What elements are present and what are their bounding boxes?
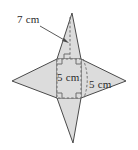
figure-container: 7 cm 5 cm 5 cm (0, 0, 138, 150)
square-side-label: 5 cm (57, 72, 80, 83)
bottom-triangle (57, 98, 81, 143)
base-edge-label: 5 cm (89, 79, 112, 90)
top-triangle (57, 13, 81, 59)
leader-line (40, 26, 66, 41)
left-triangle (12, 59, 57, 98)
slant-height-label: 7 cm (17, 14, 40, 25)
